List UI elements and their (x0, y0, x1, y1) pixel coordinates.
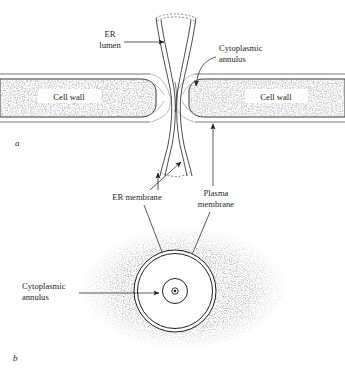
er-lumen-center-dot (174, 290, 177, 293)
panel-b-id: b (13, 353, 18, 363)
plasmodesma-rings (134, 250, 216, 332)
cell-wall-right: Cell wall (189, 74, 345, 122)
plasmodesma-figure: Cell wall Cell wall (0, 0, 345, 376)
er-lumen-label-line2: lumen (99, 40, 121, 50)
cell-wall-left-label: Cell wall (53, 92, 85, 102)
cytoplasmic-annulus-label-b-line2: annulus (22, 292, 49, 302)
cytoplasmic-annulus-label-b-line1: Cytoplasmic (22, 281, 66, 291)
er-membrane-label: ER membrane (112, 192, 162, 202)
cytoplasmic-annulus-label-a-line1: Cytoplasmic (219, 43, 263, 53)
panel-a-id: a (15, 138, 20, 148)
plasma-membrane-label-line2: membrane (198, 199, 234, 209)
cell-wall-left: Cell wall (0, 74, 156, 122)
cytoplasmic-annulus-label-a-line2: annulus (219, 54, 246, 64)
er-lumen-label-line1: ER (105, 29, 116, 39)
cell-wall-right-label: Cell wall (260, 92, 292, 102)
figure-canvas: Cell wall Cell wall (0, 0, 345, 376)
plasma-membrane-label-line1: Plasma (204, 188, 229, 198)
